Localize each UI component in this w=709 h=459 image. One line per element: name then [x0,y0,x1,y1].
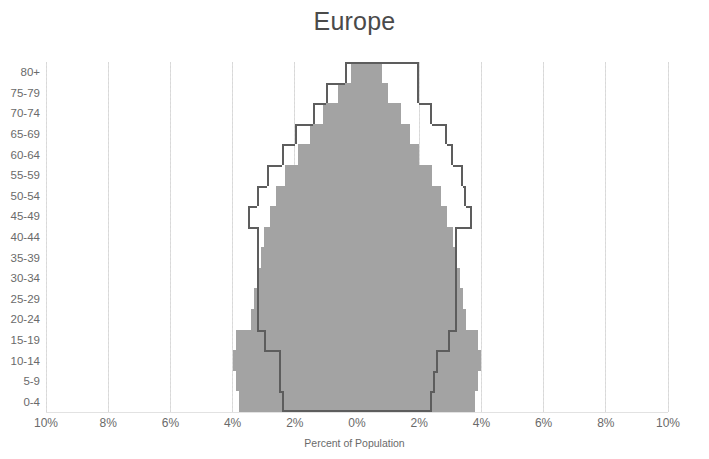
outline-edge [430,391,432,412]
y-axis-tick-label: 40-44 [0,231,40,243]
x-axis-tick-label: 10% [638,416,698,430]
y-axis-tick-label: 60-64 [0,149,40,161]
y-axis-tick-label: 5-9 [0,375,40,387]
y-axis-tick-label: 0-4 [0,396,40,408]
y-axis-tick-label: 80+ [0,66,40,78]
y-axis: 80+75-7970-7465-6960-6455-5950-5445-4940… [0,62,42,412]
outline-row [46,371,668,392]
plot-area [46,62,668,412]
outline-step [453,165,462,167]
y-axis-tick-label: 25-29 [0,293,40,305]
outline-step [432,124,448,126]
y-axis-tick-label: 10-14 [0,355,40,367]
outline-edge [448,330,450,351]
x-axis-tick-label: 4% [203,416,263,430]
outline-edge [455,227,457,248]
outline-row [46,227,668,248]
population-pyramid-chart: Europe 80+75-7970-7465-6960-6455-5950-54… [0,0,709,459]
x-axis-tick-label: 8% [576,416,636,430]
outline-row [46,103,668,124]
x-axis-title: Percent of Population [0,437,709,449]
outline-row [46,206,668,227]
outline-step [432,391,435,393]
outline-edge [436,350,438,371]
axis-baseline [46,412,668,413]
outline-edge [451,144,453,165]
outline-edge [455,309,457,330]
chart-title: Europe [0,6,709,36]
x-axis-tick-label: 4% [451,416,511,430]
outline-step [466,206,472,208]
outline-edge [455,247,457,268]
outline-row [46,144,668,165]
outline-step [450,330,456,332]
outline-row [46,165,668,186]
outline-edge [470,206,472,227]
outline-edge [433,371,435,392]
outline-edge [461,165,463,186]
outline-row [46,124,668,145]
outline-row [46,186,668,207]
outline-row [46,350,668,371]
outline-row [46,330,668,351]
outline-row [46,288,668,309]
outline-edge [417,83,419,104]
x-axis-tick-label: 10% [16,416,76,430]
outline-edge [464,186,466,207]
x-axis: 10%8%6%4%2%0%2%4%6%8%10% [0,416,709,434]
outline-row [46,62,668,83]
outline-step [357,62,419,64]
outline-step [438,350,450,352]
y-axis-tick-label: 50-54 [0,190,40,202]
outline-edge [455,268,457,289]
y-axis-tick-label: 35-39 [0,252,40,264]
outline-edge [417,62,419,83]
y-axis-tick-label: 20-24 [0,313,40,325]
y-axis-tick-label: 45-49 [0,210,40,222]
x-axis-tick-label: 6% [140,416,200,430]
x-axis-tick-label: 2% [389,416,449,430]
x-axis-tick-label: 2% [265,416,325,430]
y-axis-tick-label: 65-69 [0,128,40,140]
outline-step [457,227,473,229]
outline-step [447,144,453,146]
outline-row [46,247,668,268]
outline-step [419,103,431,105]
x-axis-tick-label: 0% [327,416,387,430]
outline-edge [455,288,457,309]
outline-row [46,83,668,104]
outline-edge [430,103,432,124]
outline-edge [445,124,447,145]
x-axis-tick-label: 8% [78,416,138,430]
y-axis-tick-label: 70-74 [0,107,40,119]
outline-row [46,309,668,330]
y-axis-tick-label: 75-79 [0,87,40,99]
outline-row [46,391,668,412]
y-axis-tick-label: 55-59 [0,169,40,181]
x-axis-tick-label: 6% [514,416,574,430]
outline-step [435,371,438,373]
outline-step [463,186,466,188]
y-axis-tick-label: 30-34 [0,272,40,284]
outline-row [46,268,668,289]
y-axis-tick-label: 15-19 [0,334,40,346]
